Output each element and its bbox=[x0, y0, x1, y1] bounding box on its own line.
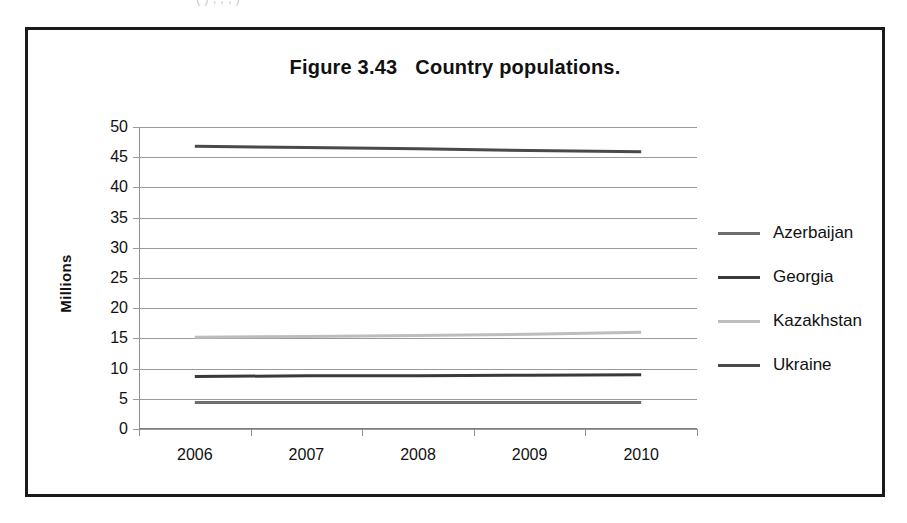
scan-artifact-top-text: ( ) , , , ) bbox=[0, 0, 907, 10]
series-line bbox=[195, 375, 641, 377]
x-axis-label: 2008 bbox=[400, 446, 436, 464]
x-axis-label: 2010 bbox=[623, 446, 659, 464]
legend-line-icon bbox=[718, 320, 760, 323]
legend-line-icon bbox=[718, 364, 760, 367]
legend-item: Ukraine bbox=[718, 350, 883, 380]
x-axis-label: 2009 bbox=[512, 446, 548, 464]
y-axis-label: 0 bbox=[119, 420, 128, 438]
legend-label: Kazakhstan bbox=[773, 311, 862, 331]
scan-artifact-text: ( ) , , , ) bbox=[196, 0, 240, 6]
series-line bbox=[195, 332, 641, 337]
y-axis-label: 5 bbox=[119, 390, 128, 408]
legend-label: Georgia bbox=[773, 267, 833, 287]
y-axis-label: 40 bbox=[110, 178, 128, 196]
y-axis-label: 20 bbox=[110, 299, 128, 317]
y-axis-label: 10 bbox=[110, 360, 128, 378]
legend-item: Azerbaijan bbox=[718, 218, 883, 248]
y-axis-label: 30 bbox=[110, 239, 128, 257]
figure-frame: Figure 3.43Country populations. Millions… bbox=[25, 27, 885, 497]
x-axis-label: 2007 bbox=[289, 446, 325, 464]
plot-area: 05101520253035404550 2006200720082009201… bbox=[139, 127, 697, 429]
x-axis-tick bbox=[362, 429, 363, 436]
x-axis-tick bbox=[585, 429, 586, 436]
x-axis-tick bbox=[697, 429, 698, 436]
y-axis-label: 25 bbox=[110, 269, 128, 287]
y-axis-label: 15 bbox=[110, 329, 128, 347]
legend-line-icon bbox=[718, 232, 760, 235]
legend-label: Ukraine bbox=[773, 355, 832, 375]
y-axis-title: Millions bbox=[57, 224, 74, 344]
legend-item: Georgia bbox=[718, 262, 883, 292]
x-axis-label: 2006 bbox=[177, 446, 213, 464]
legend-label: Azerbaijan bbox=[773, 223, 853, 243]
x-axis-tick bbox=[251, 429, 252, 436]
chart-legend: AzerbaijanGeorgiaKazakhstanUkraine bbox=[718, 218, 883, 394]
series-lines bbox=[139, 127, 697, 429]
x-axis-tick bbox=[139, 429, 140, 436]
chart-area: Millions 05101520253035404550 2006200720… bbox=[28, 30, 888, 500]
x-axis-tick bbox=[474, 429, 475, 436]
gridline bbox=[139, 429, 697, 430]
series-line bbox=[195, 146, 641, 151]
legend-line-icon bbox=[718, 276, 760, 279]
y-axis-label: 35 bbox=[110, 209, 128, 227]
legend-item: Kazakhstan bbox=[718, 306, 883, 336]
y-axis-label: 45 bbox=[110, 148, 128, 166]
y-axis-label: 50 bbox=[110, 118, 128, 136]
